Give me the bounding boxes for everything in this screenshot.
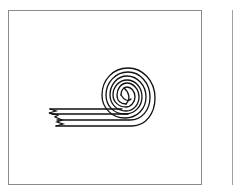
strip-torn-end	[49, 109, 63, 126]
coiled-strip-drawing	[0, 0, 234, 191]
